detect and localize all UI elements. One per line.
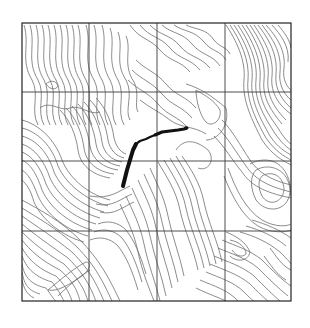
track-end-marker <box>184 126 187 129</box>
topographic-map[interactable] <box>0 0 310 328</box>
